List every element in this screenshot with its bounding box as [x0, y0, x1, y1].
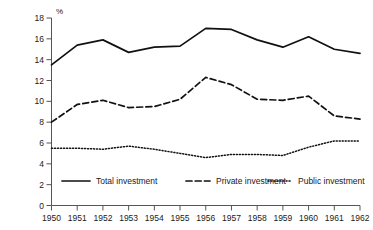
legend-label: Total investment: [96, 176, 158, 186]
series-line-public-investment: [52, 141, 361, 158]
y-tick-label: 0: [39, 201, 44, 211]
y-axis-tick-marks: [47, 18, 52, 206]
x-axis-tick-labels: 1950195119521953195419551956195719581959…: [42, 213, 370, 223]
chart-canvas: % 024681012141618 1950195119521953195419…: [0, 0, 373, 230]
y-tick-label: 18: [35, 13, 45, 23]
x-tick-label: 1958: [248, 213, 267, 223]
legend-label: Private investment: [216, 176, 287, 186]
y-tick-label: 4: [39, 159, 44, 169]
x-tick-label: 1950: [42, 213, 61, 223]
y-tick-label: 14: [35, 55, 45, 65]
y-tick-label: 6: [39, 138, 44, 148]
x-tick-label: 1961: [325, 213, 344, 223]
series-line-total-investment: [52, 28, 361, 64]
y-axis-unit-label: %: [56, 7, 63, 16]
x-tick-label: 1953: [119, 213, 138, 223]
y-tick-label: 16: [35, 34, 45, 44]
investment-line-chart: % 024681012141618 1950195119521953195419…: [0, 0, 373, 230]
x-tick-label: 1956: [196, 213, 215, 223]
x-tick-label: 1954: [145, 213, 164, 223]
legend-label: Public investment: [298, 176, 365, 186]
x-tick-label: 1957: [222, 213, 241, 223]
x-tick-label: 1951: [68, 213, 87, 223]
chart-legend: Total investmentPrivate investmentPublic…: [62, 176, 365, 186]
y-tick-label: 2: [39, 180, 44, 190]
y-tick-label: 10: [35, 96, 45, 106]
x-axis-tick-marks: [52, 206, 361, 211]
x-tick-label: 1962: [351, 213, 370, 223]
y-axis-tick-labels: 024681012141618: [35, 13, 45, 211]
series-line-private-investment: [52, 77, 361, 122]
x-tick-label: 1959: [273, 213, 292, 223]
x-tick-label: 1952: [93, 213, 112, 223]
y-tick-label: 12: [35, 76, 45, 86]
y-tick-label: 8: [39, 117, 44, 127]
x-tick-label: 1955: [171, 213, 190, 223]
x-tick-label: 1960: [299, 213, 318, 223]
